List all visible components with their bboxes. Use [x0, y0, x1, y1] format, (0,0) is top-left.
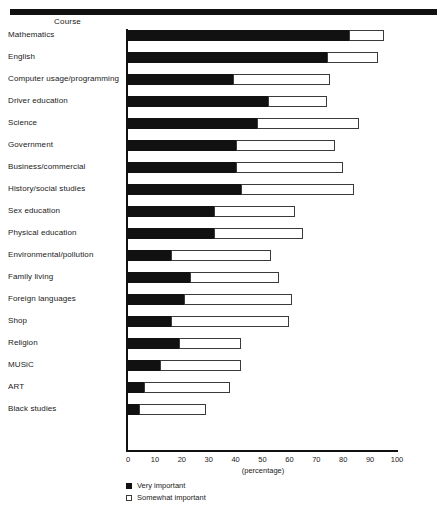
bar-segment-very-important [128, 404, 139, 415]
bar-segment-somewhat-important [144, 382, 230, 393]
chart-row: MUSiC [0, 358, 445, 380]
chart-row: Science [0, 116, 445, 138]
bar-segment-very-important [128, 338, 179, 349]
bar-segment-somewhat-important [214, 206, 295, 217]
bar-segment-somewhat-important [268, 96, 327, 107]
bar-segment-somewhat-important [179, 338, 241, 349]
bar-segment-very-important [128, 118, 257, 129]
bar-segment-somewhat-important [349, 30, 384, 41]
category-label: Foreign languages [8, 294, 76, 303]
bar-segment-somewhat-important [233, 74, 330, 85]
category-label: Mathematics [8, 30, 54, 39]
bar-segment-very-important [128, 316, 171, 327]
category-label: English [8, 52, 35, 61]
chart-row: Environmental/pollution [0, 248, 445, 270]
chart-row: Computer usage/programming [0, 72, 445, 94]
plot-area: MathematicsEnglishComputer usage/program… [0, 0, 445, 511]
bar-segment-somewhat-important [214, 228, 303, 239]
category-label: MUSiC [8, 360, 34, 369]
x-axis-line [126, 450, 398, 452]
bar-segment-very-important [128, 52, 327, 63]
category-label: Religion [8, 338, 38, 347]
category-label: Physical education [8, 228, 77, 237]
chart-row: English [0, 50, 445, 72]
chart-row: Mathematics [0, 28, 445, 50]
chart-row: Religion [0, 336, 445, 358]
chart-row: Black studies [0, 402, 445, 424]
category-label: Environmental/pollution [8, 250, 93, 259]
category-label: Driver education [8, 96, 68, 105]
x-axis-tick-label: 90 [366, 455, 374, 464]
category-label: Family living [8, 272, 53, 281]
x-axis-tick-label: 0 [126, 455, 130, 464]
bar-segment-somewhat-important [171, 316, 289, 327]
legend-label: Very important [137, 481, 185, 490]
x-axis-tick-label: 40 [231, 455, 239, 464]
bar-segment-very-important [128, 140, 236, 151]
bar-segment-very-important [128, 162, 236, 173]
bar-segment-somewhat-important [241, 184, 354, 195]
filled-square-icon [126, 483, 132, 489]
category-label: Government [8, 140, 53, 149]
legend-label: Somewhat important [137, 493, 206, 502]
x-axis-tick-label: 60 [285, 455, 293, 464]
bar-segment-somewhat-important [184, 294, 292, 305]
bar-segment-very-important [128, 250, 171, 261]
chart-row: Family living [0, 270, 445, 292]
x-axis-tick-label: 70 [312, 455, 320, 464]
bar-segment-somewhat-important [236, 162, 344, 173]
category-label: History/social studies [8, 184, 85, 193]
category-label: Computer usage/programming [8, 74, 119, 83]
category-label: Business/commercial [8, 162, 85, 171]
category-label: ART [8, 382, 24, 391]
x-axis-tick-label: 20 [178, 455, 186, 464]
bar-segment-very-important [128, 294, 184, 305]
bar-segment-somewhat-important [160, 360, 241, 371]
chart-figure: Course MathematicsEnglishComputer usage/… [0, 0, 445, 511]
hollow-square-icon [126, 495, 132, 501]
bar-segment-very-important [128, 206, 214, 217]
chart-row: Foreign languages [0, 292, 445, 314]
chart-row: Business/commercial [0, 160, 445, 182]
bar-segment-very-important [128, 228, 214, 239]
bar-segment-somewhat-important [139, 404, 206, 415]
bar-segment-very-important [128, 74, 233, 85]
chart-row: ART [0, 380, 445, 402]
category-label: Shop [8, 316, 27, 325]
x-axis-tick-label: 80 [339, 455, 347, 464]
x-axis-title: (percentage) [242, 466, 285, 475]
bar-segment-somewhat-important [236, 140, 336, 151]
bar-segment-somewhat-important [190, 272, 279, 283]
chart-row: Shop [0, 314, 445, 336]
chart-row: Driver education [0, 94, 445, 116]
category-label: Black studies [8, 404, 56, 413]
bar-segment-very-important [128, 96, 268, 107]
category-label: Sex education [8, 206, 60, 215]
chart-row: Physical education [0, 226, 445, 248]
x-axis-tick-label: 30 [205, 455, 213, 464]
bar-segment-very-important [128, 30, 349, 41]
category-label: Science [8, 118, 37, 127]
bar-segment-very-important [128, 184, 241, 195]
x-axis-tick-label: 50 [258, 455, 266, 464]
bar-segment-very-important [128, 360, 160, 371]
bar-segment-somewhat-important [171, 250, 271, 261]
x-axis-tick-label: 10 [151, 455, 159, 464]
bar-segment-very-important [128, 382, 144, 393]
bar-segment-somewhat-important [327, 52, 378, 63]
chart-row: History/social studies [0, 182, 445, 204]
chart-row: Government [0, 138, 445, 160]
x-axis-tick-label: 100 [391, 455, 404, 464]
bar-segment-very-important [128, 272, 190, 283]
chart-row: Sex education [0, 204, 445, 226]
bar-segment-somewhat-important [257, 118, 359, 129]
